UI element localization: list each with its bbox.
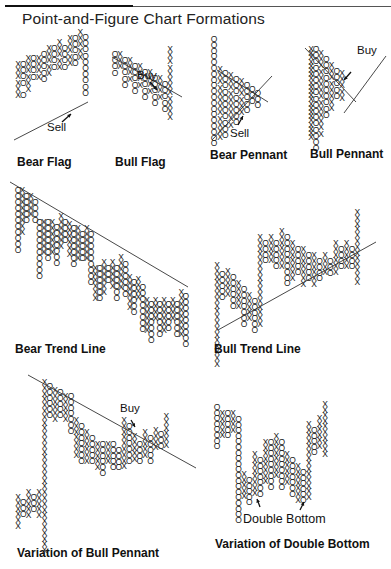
svg-text:O: O xyxy=(53,258,60,268)
svg-text:O: O xyxy=(36,271,43,281)
panel-bear-trend-line: OOOOOOOOOOOXXXXXXXXOOOOOXXXXOOOOOOOOOOOO… xyxy=(0,175,200,360)
svg-text:X: X xyxy=(19,227,25,237)
svg-text:O: O xyxy=(182,339,189,349)
svg-text:O: O xyxy=(257,489,264,499)
bull-flag-label: Bull Flag xyxy=(115,155,166,169)
svg-text:O: O xyxy=(148,335,155,345)
svg-text:X: X xyxy=(15,521,21,531)
variation-double-bottom-chart: OOOOOOOOXXXXXOOOOOXXXXOOOOOOOOOOOOOOOOOO… xyxy=(200,365,391,515)
svg-text:O: O xyxy=(268,482,275,492)
bear-trend-line-chart: OOOOOOOOOOOXXXXXXXXOOOOOXXXXOOOOOOOOOOOO… xyxy=(0,175,200,335)
bull-trend-line-chart: XXXXXXXXXXXXXXXXXXOOOOOXXXXXOOOOOOXXXXXO… xyxy=(195,200,391,340)
svg-text:O: O xyxy=(114,293,121,303)
panel-bull-trend-line: XXXXXXXXXXXXXXXXXXOOOOOXXXXXOOOOOOXXXXXO… xyxy=(195,200,391,360)
panel-bull-flag: OOOOXXXOOOOOXXXXOOOOOXXXXOOOOOXXXXOOOOOX… xyxy=(100,40,200,155)
header-rule-thin xyxy=(133,6,391,7)
svg-text:O: O xyxy=(235,515,242,525)
panel-bear-pennant: OOOOOOOOOOOOOOOOOOOXXXXXXXXXXXXOOOOOOOOO… xyxy=(190,30,290,160)
bull-pennant-label: Bull Pennant xyxy=(310,147,383,161)
bear-pennant-chart: OOOOOOOOOOOOOOOOOOOXXXXXXXXXXXXOOOOOOOOO… xyxy=(190,30,290,140)
svg-text:O: O xyxy=(214,441,221,451)
panel-variation-double-bottom: OOOOOOOOXXXXXOOOOOXXXXOOOOOOOOOOOOOOOOOO… xyxy=(200,365,391,569)
svg-text:X: X xyxy=(318,129,324,139)
svg-text:X: X xyxy=(329,103,335,113)
header-rule-thick xyxy=(5,5,133,7)
svg-text:X: X xyxy=(167,112,173,122)
svg-text:X: X xyxy=(355,277,361,287)
bear-flag-label: Bear Flag xyxy=(17,155,72,169)
svg-text:X: X xyxy=(101,287,107,297)
double-bottom-annotation: Double Bottom xyxy=(243,512,326,526)
svg-text:X: X xyxy=(322,449,328,459)
svg-text:O: O xyxy=(254,100,261,110)
panel-bull-pennant: XXXXXXXXXXXXXXXXXXXXXXOOOOOOOOOOOOOOOOOX… xyxy=(300,30,391,160)
svg-text:O: O xyxy=(246,497,253,507)
variation-bull-pennant-chart: XXXXXXOOOXXXXXOOOXXXXXXXXXXXXXXXXXXXXXXX… xyxy=(0,365,200,540)
svg-text:X: X xyxy=(26,84,32,94)
page-title: Point-and-Figure Chart Formations xyxy=(22,10,265,28)
svg-text:X: X xyxy=(306,492,312,502)
svg-text:O: O xyxy=(15,245,22,255)
svg-text:O: O xyxy=(82,88,89,98)
buy-annotation: Buy xyxy=(120,402,140,414)
bull-flag-chart: OOOOXXXOOOOOXXXXOOOOOXXXXOOOOOXXXXOOOOOX… xyxy=(100,40,200,140)
sell-annotation: Sell xyxy=(47,121,66,133)
sell-annotation: Sell xyxy=(230,127,249,139)
bear-trend-line-label: Bear Trend Line xyxy=(15,342,106,356)
svg-text:X: X xyxy=(164,440,170,450)
variation-double-bottom-label: Variation of Double Bottom xyxy=(215,537,370,551)
svg-text:O: O xyxy=(222,130,229,140)
bear-pennant-label: Bear Pennant xyxy=(210,148,287,162)
bull-trend-line-label: Bull Trend Line xyxy=(214,342,301,356)
svg-text:O: O xyxy=(131,307,138,317)
svg-text:X: X xyxy=(257,319,263,329)
panel-bear-flag: XXXXXXOOOOOXXXXXXOOOOXXXXOOOOOXXXXXOOOOX… xyxy=(0,40,100,155)
svg-text:X: X xyxy=(339,93,345,103)
svg-text:O: O xyxy=(147,456,154,466)
svg-text:O: O xyxy=(99,468,106,478)
buy-annotation: Buy xyxy=(137,69,157,81)
bull-pennant-chart: XXXXXXXXXXXXXXXXXXXXXXOOOOOOOOOOOOOOOOOX… xyxy=(300,30,391,140)
svg-text:O: O xyxy=(165,323,172,333)
panel-variation-bull-pennant: XXXXXXOOOXXXXXOOOXXXXXXXXXXXXXXXXXXXXXXX… xyxy=(0,365,200,569)
variation-bull-pennant-label: Variation of Bull Pennant xyxy=(17,546,159,560)
buy-annotation: Buy xyxy=(357,44,377,56)
